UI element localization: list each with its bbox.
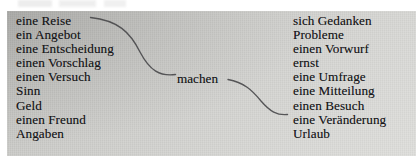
page-scan-artifact <box>18 0 208 7</box>
left-phrase-7: Geld <box>16 99 114 113</box>
left-phrase-3: eine Entscheidung <box>16 42 114 56</box>
right-phrase-3: einen Vorwurf <box>293 42 386 56</box>
left-phrase-1: eine Reise <box>16 14 114 28</box>
left-phrase-9: Angaben <box>16 127 114 141</box>
left-phrase-2: ein Angebot <box>16 28 114 42</box>
center-verb: machen <box>177 72 218 86</box>
scanned-figure-screenshot: eine Reise ein Angebot eine Entscheidung… <box>0 0 416 162</box>
right-collocations-column: sich Gedanken Probleme einen Vorwurf ern… <box>293 14 386 141</box>
right-phrase-1: sich Gedanken <box>293 14 386 28</box>
right-phrase-9: Urlaub <box>293 127 386 141</box>
left-phrase-8: einen Freund <box>16 113 114 127</box>
right-phrase-5: eine Umfrage <box>293 70 386 84</box>
left-collocations-column: eine Reise ein Angebot eine Entscheidung… <box>16 14 114 141</box>
left-phrase-5: einen Versuch <box>16 70 114 84</box>
right-phrase-8: eine Veränderung <box>293 113 386 127</box>
right-phrase-2: Probleme <box>293 28 386 42</box>
left-phrase-6: Sinn <box>16 84 114 98</box>
right-phrase-7: einen Besuch <box>293 99 386 113</box>
left-phrase-4: einen Vorschlag <box>16 56 114 70</box>
right-phrase-6: eine Mitteilung <box>293 84 386 98</box>
right-phrase-4: ernst <box>293 56 386 70</box>
